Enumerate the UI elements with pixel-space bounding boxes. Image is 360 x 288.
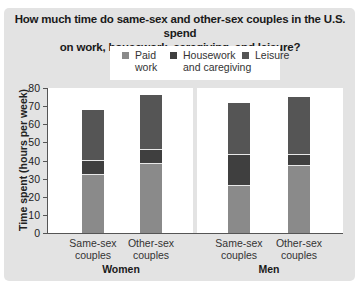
group-label-women: Women xyxy=(81,263,161,275)
bar-segment-paid-work xyxy=(288,166,310,233)
category-label-line2: couples xyxy=(264,249,334,261)
bar-segment-leisure xyxy=(288,97,310,155)
chart-title-line-1: How much time do same-sex and other-sex … xyxy=(0,12,360,40)
category-men-other-sex: Other-sex couples xyxy=(264,237,334,261)
bar-segment-housework-and-caregiving xyxy=(82,161,104,176)
category-label-line1: Other-sex xyxy=(264,237,334,249)
y-tick xyxy=(43,179,47,180)
y-tick xyxy=(43,88,47,89)
y-tick xyxy=(43,142,47,143)
category-label-line1: Other-sex xyxy=(116,237,186,249)
y-tick xyxy=(43,215,47,216)
legend-label-paid-line1: Paid xyxy=(135,49,157,61)
y-axis-label: Time spent (hours per week) xyxy=(17,85,29,235)
y-tick xyxy=(43,233,47,234)
bar-segment-paid-work xyxy=(140,164,162,233)
legend-swatch-leisure xyxy=(242,52,249,59)
panel-men xyxy=(197,88,343,233)
legend-label-housework-line2: and caregiving xyxy=(183,61,251,73)
legend-label-paid-work: Paid work xyxy=(135,49,157,73)
group-label-men: Men xyxy=(229,263,309,275)
category-women-other-sex: Other-sex couples xyxy=(116,237,186,261)
legend: Paid work Housework and caregiving Leisu… xyxy=(110,46,280,80)
bar-segment-leisure xyxy=(82,110,104,161)
y-tick xyxy=(43,161,47,162)
legend-label-paid-line2: work xyxy=(135,61,157,73)
x-axis-line xyxy=(47,233,343,234)
bar-segment-housework-and-caregiving xyxy=(140,150,162,165)
category-label-line2: couples xyxy=(116,249,186,261)
y-tick xyxy=(43,197,47,198)
bar-segment-leisure xyxy=(140,95,162,149)
y-tick xyxy=(43,124,47,125)
bar-segment-paid-work xyxy=(228,186,250,233)
legend-swatch-housework xyxy=(170,52,177,59)
bar-segment-housework-and-caregiving xyxy=(288,155,310,166)
bar-segment-paid-work xyxy=(82,175,104,233)
y-tick xyxy=(43,106,47,107)
legend-label-leisure: Leisure xyxy=(255,49,289,61)
bar-segment-housework-and-caregiving xyxy=(228,155,250,186)
panel-women xyxy=(47,88,193,233)
y-axis-line xyxy=(47,88,48,234)
bar-segment-leisure xyxy=(228,103,250,156)
legend-swatch-paid-work xyxy=(122,52,129,59)
